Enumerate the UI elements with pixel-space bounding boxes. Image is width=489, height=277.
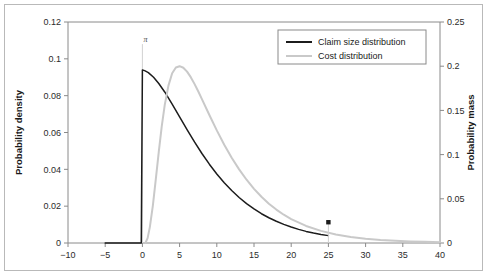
y-ticklabel-right: 0 xyxy=(447,238,452,248)
y-ticklabel-right: 0.2 xyxy=(447,61,460,71)
x-ticklabel: 35 xyxy=(398,250,408,260)
x-ticklabel: 0 xyxy=(140,250,145,260)
y-ticklabel-left: 0.12 xyxy=(43,17,61,27)
y-ticklabel-left: 0.1 xyxy=(48,54,61,64)
y-axis-title-right: Probability mass xyxy=(465,94,476,170)
x-ticklabel: 5 xyxy=(177,250,182,260)
x-ticklabel: −5 xyxy=(100,250,110,260)
y-ticklabel-left: 0.08 xyxy=(43,91,61,101)
y-ticklabel-right: 0.05 xyxy=(447,194,465,204)
y-ticklabel-left: 0.04 xyxy=(43,165,61,175)
y-ticklabel-left: 0.06 xyxy=(43,128,61,138)
y-ticklabel-left: 0.02 xyxy=(43,201,61,211)
x-ticklabel: 15 xyxy=(249,250,259,260)
x-ticklabel: 40 xyxy=(435,250,445,260)
y-axis-title-left: Probability density xyxy=(13,89,24,175)
chart-canvas: 00.020.040.060.080.10.1200.050.10.150.20… xyxy=(0,0,489,277)
y-ticklabel-right: 0.15 xyxy=(447,106,465,116)
y-ticklabel-left: 0 xyxy=(56,238,61,248)
series-line-claim-size-distribution xyxy=(105,70,328,243)
y-ticklabel-right: 0.25 xyxy=(447,17,465,27)
chart-container: 00.020.040.060.080.10.1200.050.10.150.20… xyxy=(0,0,489,277)
legend-label: Cost distribution xyxy=(318,51,383,61)
y-ticklabel-right: 0.1 xyxy=(447,150,460,160)
marker-point xyxy=(326,220,330,224)
x-ticklabel: 10 xyxy=(212,250,222,260)
legend-label: Claim size distribution xyxy=(318,37,406,47)
x-ticklabel: 20 xyxy=(286,250,296,260)
series-line-cost-distribution xyxy=(145,66,440,243)
pi-label: π xyxy=(143,35,148,44)
x-ticklabel: −10 xyxy=(60,250,75,260)
x-ticklabel: 30 xyxy=(361,250,371,260)
x-ticklabel: 25 xyxy=(323,250,333,260)
